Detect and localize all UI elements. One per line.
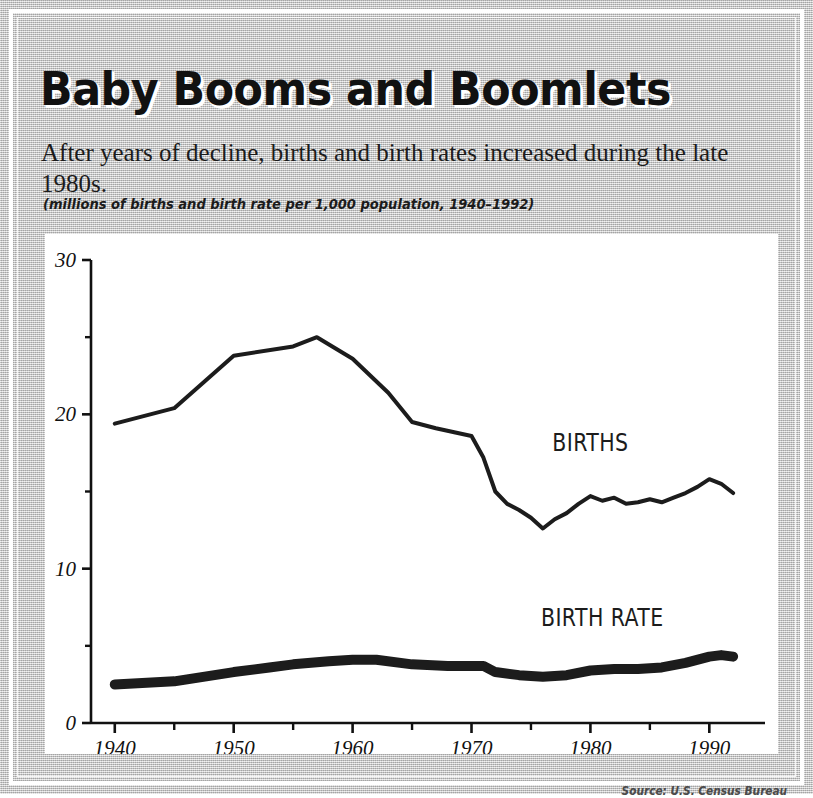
series-line-birth-rate bbox=[115, 655, 733, 684]
line-chart-svg: 0102030 194019501960197019801990 BIRTHSB… bbox=[45, 234, 778, 754]
x-axis-tick-label: 1940 bbox=[94, 736, 137, 754]
series-label-births: BIRTHS bbox=[552, 428, 628, 456]
x-axis-tick-label: 1980 bbox=[569, 736, 612, 754]
x-axis-tick-label: 1950 bbox=[213, 736, 256, 754]
page-title: Baby Booms and Boomlets bbox=[40, 63, 671, 115]
x-axis-tick-label: 1960 bbox=[332, 736, 375, 754]
chart-subtitle: After years of decline, births and birth… bbox=[41, 137, 731, 199]
x-axis-tick-label: 1970 bbox=[451, 736, 494, 754]
chart-plot-panel: 0102030 194019501960197019801990 BIRTHSB… bbox=[45, 234, 778, 754]
series-label-birth-rate: BIRTH RATE bbox=[541, 603, 664, 631]
y-axis-tick-label: 0 bbox=[66, 711, 77, 735]
x-axis: 194019501960197019801990 bbox=[91, 723, 765, 754]
source-credit: Source: U.S. Census Bureau bbox=[621, 784, 787, 798]
chart-units-caption: (millions of births and birth rate per 1… bbox=[43, 196, 534, 212]
y-axis: 0102030 bbox=[54, 248, 91, 735]
y-axis-tick-label: 20 bbox=[55, 402, 77, 426]
y-axis-tick-label: 10 bbox=[55, 557, 77, 581]
series-annotations: BIRTHSBIRTH RATE bbox=[541, 428, 664, 631]
x-axis-tick-label: 1990 bbox=[688, 736, 731, 754]
data-series-group bbox=[115, 337, 733, 684]
y-axis-tick-label: 30 bbox=[54, 248, 77, 272]
series-line-births bbox=[115, 337, 733, 528]
